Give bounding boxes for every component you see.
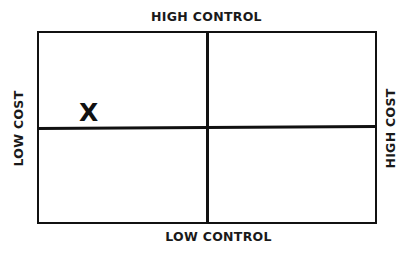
axis-label-high-control: HIGH CONTROL — [0, 9, 413, 24]
axis-label-high-cost: HIGH COST — [383, 69, 398, 189]
axis-label-low-cost: LOW COST — [11, 69, 26, 189]
position-marker-x: X — [79, 98, 98, 127]
axis-label-low-control: LOW CONTROL — [12, 229, 413, 244]
